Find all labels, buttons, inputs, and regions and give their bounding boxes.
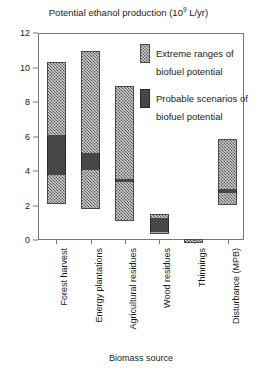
x-tick-mark: [91, 239, 92, 244]
bar-group[interactable]: [81, 34, 100, 241]
legend-label-probable-line1: Probable scenarios of: [156, 93, 248, 104]
x-axis-label-wood-residues: Wood residues: [162, 248, 172, 308]
bar-group[interactable]: [47, 34, 66, 241]
bar-segment-extreme[interactable]: [81, 51, 100, 209]
x-tick-mark: [228, 239, 229, 244]
y-tick-label: 12: [20, 28, 30, 38]
x-tick-mark: [159, 239, 160, 244]
x-tick-mark: [56, 239, 57, 244]
bar-segment-extreme[interactable]: [115, 86, 134, 221]
x-axis-label-disturbance-mpb: Disturbance (MPB): [231, 248, 241, 324]
bar-group[interactable]: [115, 34, 134, 241]
x-axis-title: Biomass source: [38, 353, 244, 363]
legend-swatch-extreme-icon: [140, 44, 150, 63]
y-axis: 024681012: [0, 33, 38, 240]
x-tick-mark: [125, 239, 126, 244]
chart-figure: Potential ethanol production (109 L/yr) …: [0, 0, 257, 376]
y-tick-label: 2: [25, 201, 30, 211]
x-tick-mark: [194, 239, 195, 244]
legend-label-extreme-line2: biofuel potential: [156, 66, 223, 77]
legend-item-probable: Probable scenarios of biofuel potential: [140, 88, 252, 124]
x-axis-label-agricultural-residues: Agricultural residues: [128, 248, 138, 330]
chart-title-tail: L/yr): [187, 7, 209, 18]
chart-title-main: Potential ethanol production (10: [49, 7, 183, 18]
x-axis-label-energy-plantations: Energy plantations: [94, 248, 104, 323]
chart-legend: Extreme ranges of biofuel potential Prob…: [140, 43, 252, 133]
legend-label-extreme: Extreme ranges of biofuel potential: [156, 48, 234, 77]
bar-segment-probable[interactable]: [218, 189, 237, 192]
chart-title: Potential ethanol production (109 L/yr): [0, 6, 257, 18]
y-tick-label: 6: [25, 132, 30, 142]
x-axis-label-forest-harvest: Forest harvest: [59, 248, 69, 306]
legend-item-extreme: Extreme ranges of biofuel potential: [140, 43, 252, 79]
bar-segment-probable[interactable]: [47, 135, 66, 175]
y-tick-label: 0: [25, 235, 30, 245]
y-tick-label: 8: [25, 97, 30, 107]
bar-segment-probable[interactable]: [81, 153, 100, 170]
x-axis-label-thinnings: Thinnings: [197, 248, 207, 287]
bar-segment-probable[interactable]: [150, 218, 169, 233]
y-tick-label: 4: [25, 166, 30, 176]
bar-segment-probable[interactable]: [115, 179, 134, 182]
legend-swatch-probable-icon: [140, 89, 150, 108]
bar-segment-extreme[interactable]: [218, 139, 237, 205]
legend-label-probable-line2: biofuel potential: [156, 111, 223, 122]
bar-segment-extreme[interactable]: [47, 62, 66, 205]
legend-label-extreme-line1: Extreme ranges of: [156, 48, 234, 59]
legend-label-probable: Probable scenarios of biofuel potential: [156, 93, 248, 122]
y-tick-label: 10: [20, 63, 30, 73]
